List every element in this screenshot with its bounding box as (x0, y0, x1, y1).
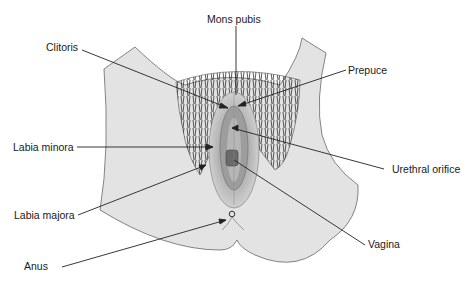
label-labia-minora: Labia minora (13, 141, 74, 153)
label-urethral-orifice: Urethral orifice (392, 163, 460, 175)
label-mons-pubis: Mons pubis (207, 13, 261, 25)
label-prepuce: Prepuce (348, 64, 387, 76)
vaginal-opening (226, 150, 238, 166)
label-vagina: Vagina (368, 238, 400, 250)
label-clitoris: Clitoris (46, 41, 78, 53)
label-labia-majora: Labia majora (14, 209, 75, 221)
label-anus: Anus (24, 260, 48, 272)
